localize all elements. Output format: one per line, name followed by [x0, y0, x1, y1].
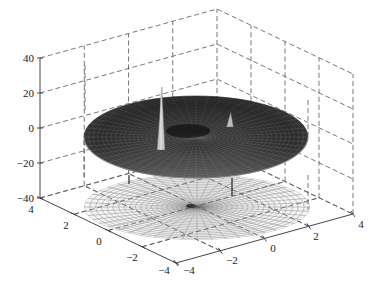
z-axis-ticks: 40 20 0 −20 −40	[17, 52, 35, 204]
x-tick-label: 0	[270, 242, 276, 254]
top-surface	[78, 94, 313, 180]
x-tick-label: 2	[313, 230, 319, 242]
y-tick-label: −2	[126, 251, 138, 263]
x-tick-label: −4	[183, 264, 195, 276]
bottom-mesh-projection	[84, 174, 310, 240]
z-tick-label: 0	[29, 122, 35, 134]
y-tick-label: 2	[63, 219, 69, 231]
y-tick-label: 0	[96, 235, 102, 247]
y-tick-label: 4	[28, 203, 34, 215]
z-tick-label: 20	[23, 87, 35, 99]
x-tick-label: 4	[358, 218, 364, 230]
x-tick-label: −2	[226, 254, 238, 266]
surface-3d-plot: 40 20 0 −20 −40 4 2 0 −2 −4 −4 −2 0 2 4	[0, 0, 373, 288]
z-tick-label: −20	[17, 157, 35, 169]
y-tick-label: −4	[158, 264, 170, 276]
z-tick-label: 40	[23, 52, 35, 64]
